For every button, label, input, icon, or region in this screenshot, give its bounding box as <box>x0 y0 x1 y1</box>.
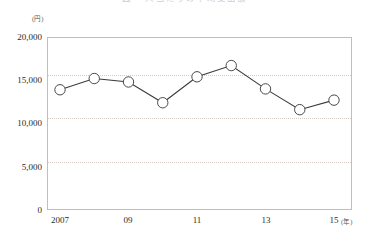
data-point-2013 <box>260 84 270 94</box>
data-point-2010 <box>158 98 168 108</box>
series-markers <box>55 60 339 115</box>
data-point-2008 <box>89 73 99 83</box>
data-series-layer <box>0 0 369 238</box>
data-point-2007 <box>55 85 65 95</box>
data-point-2012 <box>226 60 236 70</box>
data-point-2009 <box>123 77 133 87</box>
data-point-2011 <box>192 72 202 82</box>
data-point-2015 <box>329 95 339 105</box>
data-point-2014 <box>295 104 305 114</box>
chart-figure: 図 一人当たりの平均支出額 (円) (年) 20,000 15,000 10,0… <box>0 0 369 238</box>
